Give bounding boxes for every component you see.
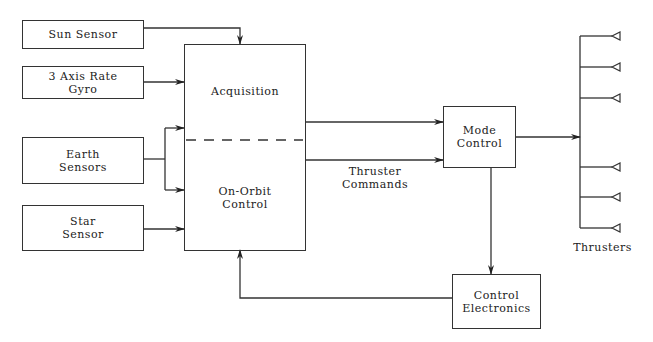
acquisition-label: Acquisition	[184, 85, 306, 98]
sun-sensor-block: Sun Sensor	[22, 20, 144, 49]
thruster-commands-label: Thruster Commands	[335, 165, 415, 191]
rate-gyro-block: 3 Axis Rate Gyro	[22, 66, 144, 99]
control-electronics-block: Control Electronics	[452, 274, 541, 329]
rate-gyro-label: 3 Axis Rate Gyro	[49, 70, 118, 96]
attitude-control-block-diagram: Sun Sensor 3 Axis Rate Gyro Earth Sensor…	[0, 0, 653, 342]
thrusters-label: Thrusters	[565, 241, 640, 254]
attitude-controller-block	[184, 44, 306, 251]
earth-sensors-block: Earth Sensors	[22, 137, 144, 184]
thruster-icons	[612, 32, 620, 232]
mode-control-block: Mode Control	[443, 106, 516, 168]
on-orbit-control-label: On-Orbit Control	[184, 185, 306, 211]
star-sensor-label: Star Sensor	[62, 215, 104, 241]
mode-control-label: Mode Control	[457, 124, 502, 150]
star-sensor-block: Star Sensor	[22, 205, 144, 251]
arrow-sun-to-acquisition	[143, 28, 240, 44]
control-electronics-label: Control Electronics	[462, 289, 530, 315]
sun-sensor-label: Sun Sensor	[49, 28, 118, 41]
earth-sensors-label: Earth Sensors	[59, 148, 107, 174]
arrow-feedback-to-onorbit	[240, 250, 452, 298]
